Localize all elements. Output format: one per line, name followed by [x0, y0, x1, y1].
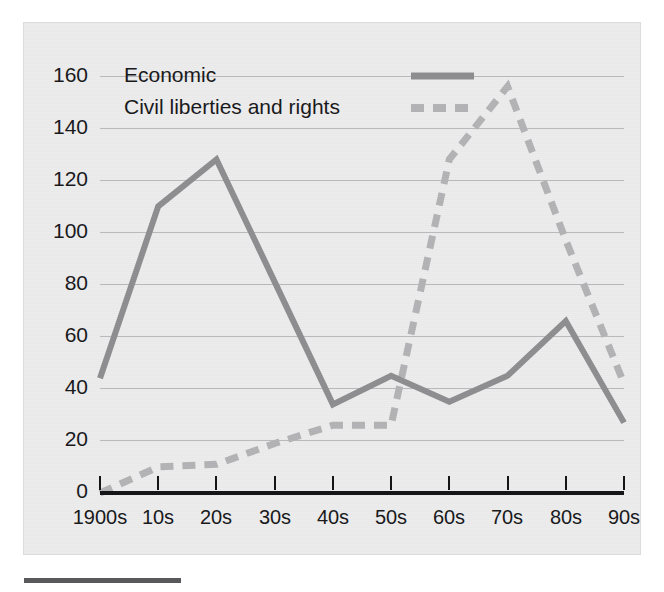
legend-label-civil-liberties-and-rights: Civil liberties and rights — [124, 95, 340, 118]
line-chart: 160 140 120 100 80 60 40 20 0 1900s 10 — [24, 23, 642, 556]
y-tick-label: 140 — [53, 115, 88, 138]
bottom-caption-rule — [24, 578, 181, 583]
x-tick-label: 90s — [608, 506, 640, 528]
x-axis-tickmarks — [100, 476, 624, 490]
y-tick-label: 160 — [53, 63, 88, 86]
x-tick-label: 20s — [200, 506, 232, 528]
x-tick-label: 10s — [142, 506, 174, 528]
legend-label-economic: Economic — [124, 63, 216, 86]
x-tick-label: 80s — [550, 506, 582, 528]
gridlines — [100, 76, 624, 440]
y-tick-label: 60 — [65, 323, 88, 346]
chart-card: 160 140 120 100 80 60 40 20 0 1900s 10 — [23, 22, 641, 555]
y-axis-labels: 160 140 120 100 80 60 40 20 0 — [53, 63, 88, 502]
y-tick-label: 20 — [65, 427, 88, 450]
series-line-economic — [100, 159, 624, 422]
x-tick-label: 1900s — [73, 506, 128, 528]
legend: Economic Civil liberties and rights — [124, 63, 474, 118]
x-tick-label: 40s — [317, 506, 349, 528]
y-tick-label: 100 — [53, 219, 88, 242]
y-tick-label: 0 — [76, 479, 88, 502]
screenshot-page: 160 140 120 100 80 60 40 20 0 1900s 10 — [0, 0, 664, 592]
x-tick-label: 70s — [491, 506, 523, 528]
y-tick-label: 40 — [65, 375, 88, 398]
x-axis-labels: 1900s 10s 20s 30s 40s 50s 60s 70s 80s 90… — [73, 506, 640, 528]
x-tick-label: 50s — [375, 506, 407, 528]
y-tick-label: 120 — [53, 167, 88, 190]
y-tick-label: 80 — [65, 271, 88, 294]
x-tick-label: 30s — [259, 506, 291, 528]
series-line-civil-liberties-and-rights — [100, 86, 624, 493]
x-tick-label: 60s — [433, 506, 465, 528]
